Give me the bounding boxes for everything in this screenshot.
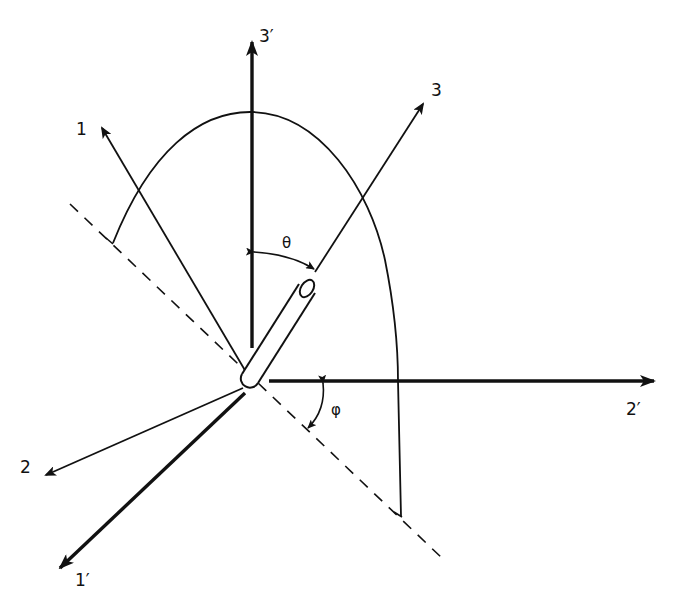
label-axis-3prime: 3′ xyxy=(259,26,274,46)
axis-2 xyxy=(46,388,243,475)
label-axis-2: 2 xyxy=(20,457,31,477)
great-circle-arc xyxy=(113,112,401,516)
arc-end-tick-left xyxy=(106,238,113,244)
phi-angle-arc xyxy=(308,383,323,428)
label-phi: φ xyxy=(331,401,341,419)
axis-1 xyxy=(102,128,246,372)
axis-1prime xyxy=(60,393,245,568)
axis-3 xyxy=(315,104,423,272)
label-axis-3: 3 xyxy=(431,80,442,100)
label-theta: θ xyxy=(282,234,291,252)
label-axis-2prime: 2′ xyxy=(626,399,641,419)
label-axis-1prime: 1′ xyxy=(75,570,90,590)
label-axis-1: 1 xyxy=(76,119,87,139)
theta-angle-arc xyxy=(254,252,314,269)
euler-angle-diagram: 3′ 2′ 1′ 3 1 2 θ φ xyxy=(0,0,681,595)
